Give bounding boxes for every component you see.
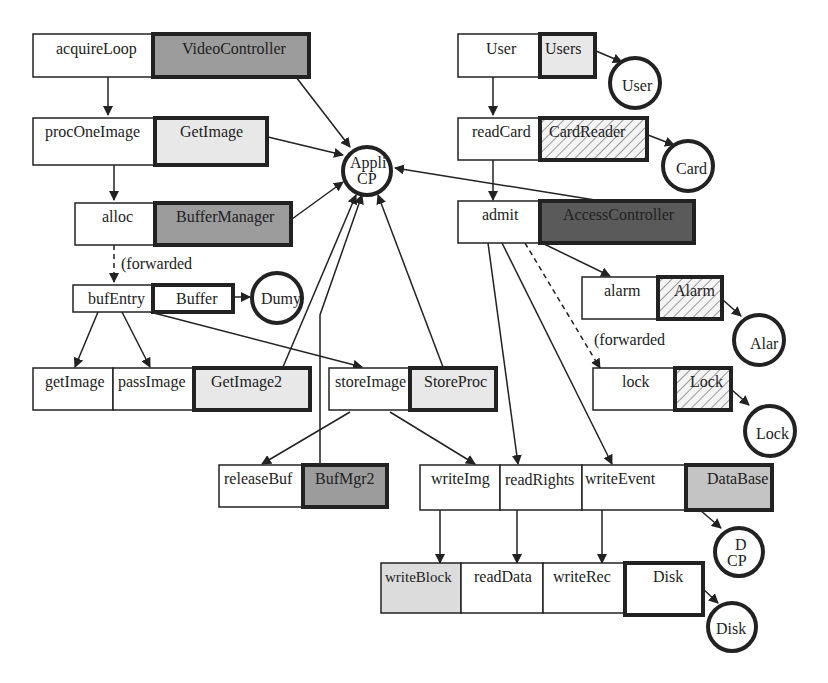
task-card-reader[interactable]: readCard CardReader xyxy=(458,118,647,160)
task-database[interactable]: writeImg readRights writeEvent DataBase xyxy=(420,465,772,510)
task-label: Alarm xyxy=(674,282,715,299)
entry-alloc[interactable]: alloc xyxy=(102,208,133,225)
processor-user[interactable]: User xyxy=(610,58,660,108)
task-video-controller[interactable]: acquireLoop VideoController xyxy=(33,34,309,77)
task-get-image[interactable]: procOneImage GetImage xyxy=(33,118,267,165)
task-label: VideoController xyxy=(182,40,287,57)
task-label: Buffer xyxy=(176,290,218,307)
task-label: CardReader xyxy=(549,123,626,140)
processor-label: Alar xyxy=(750,335,779,352)
task-disk[interactable]: writeBlock readData writeRec Disk xyxy=(381,563,703,615)
entry-passimage[interactable]: passImage xyxy=(118,373,186,391)
task-label: BufMgr2 xyxy=(315,470,375,488)
entry-writeevent[interactable]: writeEvent xyxy=(585,470,656,487)
processor-label: CP xyxy=(357,170,377,187)
lqn-diagram: acquireLoop VideoController procOneImage… xyxy=(0,0,828,683)
task-label: AccessController xyxy=(563,206,675,223)
entry-user[interactable]: User xyxy=(486,40,517,57)
processor-alarm[interactable]: Alar xyxy=(734,315,784,365)
processor-lock[interactable]: Lock xyxy=(745,406,795,456)
entry-admit[interactable]: admit xyxy=(482,206,519,223)
processor-db-cp[interactable]: D CP xyxy=(715,528,763,576)
task-buffer-manager[interactable]: alloc BufferManager xyxy=(75,203,291,245)
forwarded-annotation-left: (forwarded xyxy=(121,255,192,273)
task-label: Disk xyxy=(653,568,683,585)
entry-readcard[interactable]: readCard xyxy=(472,123,531,140)
entry-releasebuf[interactable]: releaseBuf xyxy=(224,470,293,487)
processor-label: Lock xyxy=(756,425,789,442)
entry-getimage[interactable]: getImage xyxy=(45,373,105,391)
processor-label: User xyxy=(622,77,653,94)
processor-label: Dumy xyxy=(261,290,301,308)
processor-disk[interactable]: Disk xyxy=(708,603,756,651)
task-label: BufferManager xyxy=(176,208,275,226)
task-users[interactable]: User Users xyxy=(458,34,595,77)
task-get-image2[interactable]: getImage passImage GetImage2 xyxy=(33,368,310,410)
entry-acquireloop[interactable]: acquireLoop xyxy=(56,40,137,58)
task-label: DataBase xyxy=(707,470,768,487)
processor-label: D xyxy=(735,536,747,553)
processor-label: Card xyxy=(676,160,707,177)
task-store-proc[interactable]: storeImage StoreProc xyxy=(329,368,496,410)
entry-proconeimage[interactable]: procOneImage xyxy=(45,123,140,141)
entry-writeblock[interactable]: writeBlock xyxy=(385,569,452,585)
processor-dumy[interactable]: Dumy xyxy=(252,273,302,323)
task-label: GetImage2 xyxy=(211,373,282,391)
task-label: Users xyxy=(545,40,581,57)
task-buffer[interactable]: bufEntry Buffer xyxy=(73,285,233,312)
forwarded-annotation-right: (forwarded xyxy=(594,331,665,349)
entry-writeimg[interactable]: writeImg xyxy=(431,470,490,488)
processor-appli-cp[interactable]: Appli CP xyxy=(343,147,391,195)
entry-bufentry[interactable]: bufEntry xyxy=(88,290,145,308)
entry-alarm[interactable]: alarm xyxy=(604,282,641,299)
processor-label: Disk xyxy=(716,620,746,637)
task-access-controller[interactable]: admit AccessController xyxy=(458,201,694,243)
entry-readdata[interactable]: readData xyxy=(474,568,532,585)
entry-writerec[interactable]: writeRec xyxy=(553,568,611,585)
task-label: StoreProc xyxy=(424,373,487,390)
task-lock[interactable]: lock Lock xyxy=(593,368,731,410)
entry-readrights[interactable]: readRights xyxy=(505,471,574,489)
entry-lock[interactable]: lock xyxy=(622,373,650,390)
task-label: GetImage xyxy=(180,123,243,141)
task-buf-mgr2[interactable]: releaseBuf BufMgr2 xyxy=(219,465,387,507)
entry-storeimage[interactable]: storeImage xyxy=(335,373,406,391)
task-label: Lock xyxy=(690,373,723,390)
task-alarm[interactable]: alarm Alarm xyxy=(582,277,722,319)
processor-card[interactable]: Card xyxy=(663,141,713,191)
processor-label: CP xyxy=(727,552,747,569)
